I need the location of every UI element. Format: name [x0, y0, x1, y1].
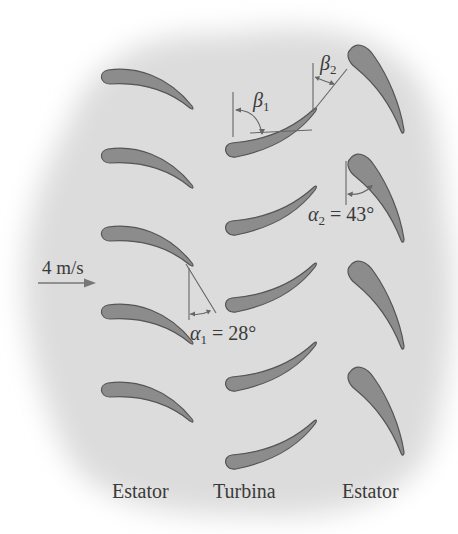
alpha1-value: = 28°	[207, 322, 256, 344]
beta1-label: β1	[253, 89, 269, 115]
alpha1-symbol: α	[190, 322, 201, 344]
beta2-subscript: 2	[330, 62, 337, 77]
beta1-symbol: β	[253, 89, 263, 111]
inlet-speed-label: 4 m/s	[42, 257, 84, 279]
alpha2-value: = 43°	[325, 203, 374, 225]
alpha1-label: α1 = 28°	[190, 322, 256, 348]
turbine-label: Turbina	[213, 480, 276, 503]
alpha2-symbol: α	[308, 203, 319, 225]
beta2-symbol: β	[320, 52, 330, 74]
alpha2-label: α2 = 43°	[308, 203, 374, 229]
beta1-subscript: 1	[263, 99, 270, 114]
left-stator-label: Estator	[112, 480, 169, 503]
turbine-cascade-diagram: 4 m/s α1 = 28° α2 = 43° β1 β2 Estator Tu…	[0, 0, 458, 534]
right-stator-label: Estator	[342, 480, 399, 503]
beta2-label: β2	[320, 52, 336, 78]
